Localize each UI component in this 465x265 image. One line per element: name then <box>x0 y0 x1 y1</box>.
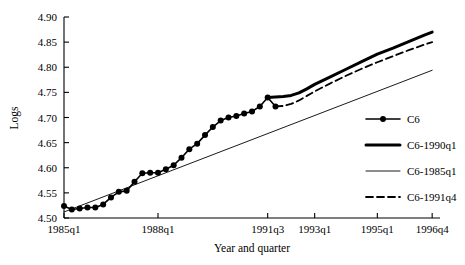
series-C6-1990q1 <box>268 32 433 97</box>
series-C6-1985q1 <box>64 70 432 212</box>
y-tick-label: 4.65 <box>38 137 58 149</box>
data-point <box>61 203 67 209</box>
data-point <box>92 204 98 210</box>
chart-legend: C6C6-1990q1C6-1985q1C6-1991q4 <box>366 113 457 203</box>
legend-label: C6-1991q4 <box>407 191 457 203</box>
data-point <box>163 166 169 172</box>
y-tick-label: 4.85 <box>38 36 58 48</box>
y-tick-label: 4.70 <box>38 112 58 124</box>
data-point <box>194 141 200 147</box>
legend-label: C6-1985q1 <box>407 165 457 177</box>
series-C6-1991q4 <box>276 42 433 106</box>
data-point <box>179 155 185 161</box>
data-point <box>100 201 106 207</box>
data-point <box>210 124 216 130</box>
data-point <box>108 194 114 200</box>
legend-item-C6[interactable]: C6 <box>366 113 420 125</box>
y-tick-label: 4.55 <box>38 187 58 199</box>
data-point <box>139 170 145 176</box>
legend-label: C6 <box>407 113 420 125</box>
legend-label: C6-1990q1 <box>407 139 457 151</box>
x-tick-label: 1988q1 <box>142 223 175 235</box>
data-point <box>241 110 247 116</box>
y-axis-title: Logs <box>8 106 21 130</box>
data-point <box>226 115 232 121</box>
data-point <box>257 103 263 109</box>
y-tick-label: 4.75 <box>38 86 58 98</box>
x-tick-label: 1996q4 <box>416 223 450 235</box>
series-C6 <box>61 94 279 212</box>
legend-marker-icon <box>380 116 386 122</box>
data-point <box>85 204 91 210</box>
data-point <box>147 170 153 176</box>
y-tick-label: 4.90 <box>38 11 58 23</box>
line-chart: 4.504.554.604.654.704.754.804.854.90 198… <box>0 0 465 265</box>
chart-container: 4.504.554.604.654.704.754.804.854.90 198… <box>0 0 465 265</box>
legend-item-C6-1985q1[interactable]: C6-1985q1 <box>366 165 457 177</box>
data-point <box>233 113 239 119</box>
series-line <box>268 32 433 97</box>
x-tick-label: 1993q1 <box>298 223 331 235</box>
y-tick-label: 4.60 <box>38 162 58 174</box>
data-point <box>202 132 208 138</box>
x-tick-label: 1991q3 <box>251 223 285 235</box>
data-series-layer <box>61 32 432 212</box>
x-axis-ticks: 1985q11988q11991q31993q11995q11996q4 <box>48 213 450 235</box>
data-point <box>218 118 224 124</box>
x-tick-label: 1995q1 <box>361 223 394 235</box>
data-point <box>171 162 177 168</box>
legend-item-C6-1990q1[interactable]: C6-1990q1 <box>366 139 457 151</box>
x-axis-title: Year and quarter <box>214 242 290 255</box>
data-point <box>186 146 192 152</box>
series-line <box>276 42 433 106</box>
legend-item-C6-1991q4[interactable]: C6-1991q4 <box>366 191 457 203</box>
data-point <box>249 108 255 114</box>
series-line <box>64 70 432 212</box>
y-tick-label: 4.80 <box>38 61 58 73</box>
x-tick-label: 1985q1 <box>48 223 81 235</box>
